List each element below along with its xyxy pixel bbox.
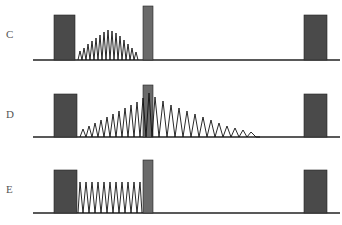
panel-label-d: D	[6, 108, 14, 120]
panel-label-c: C	[6, 28, 13, 40]
oscillation-c	[78, 30, 138, 60]
wide-pulse-left-d	[54, 94, 77, 137]
panel-d	[33, 85, 340, 137]
wide-pulse-right-c	[304, 15, 327, 60]
narrow-pulse-c	[143, 6, 153, 60]
figure-caption	[90, 214, 290, 222]
narrow-pulse-e	[143, 160, 153, 213]
wide-pulse-left-c	[54, 15, 75, 60]
wide-pulse-left-e	[54, 170, 77, 213]
panel-c	[33, 6, 340, 60]
oscillation-e	[78, 182, 142, 213]
panel-label-e: E	[6, 183, 13, 195]
wide-pulse-right-e	[304, 170, 327, 213]
pulse-diagram	[0, 0, 342, 225]
panel-e	[33, 160, 340, 213]
oscillation-d	[80, 93, 260, 137]
wide-pulse-right-d	[304, 94, 327, 137]
